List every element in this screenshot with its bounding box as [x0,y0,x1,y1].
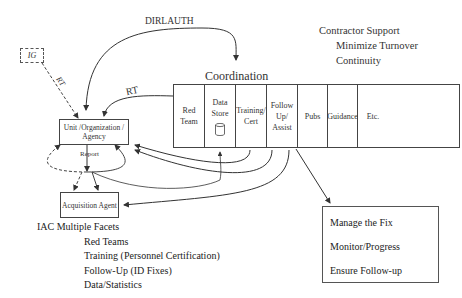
report-label: Report [80,150,99,158]
acquisition-label: Acquisition Agent [62,201,117,210]
unit-label: Unit /Organization / Agency [62,123,126,141]
cell-guidance: Guidance [328,85,358,147]
dirlauth-label: DIRLAUTH [145,16,194,26]
contractor-item-continuity: Continuity [336,54,381,68]
cell-etc: Etc. [358,85,388,147]
facet-follow-up: Follow-Up (ID Fixes) [37,264,220,279]
facet-data-statistics: Data/Statistics [37,278,220,293]
iac-facets: IAC Multiple Facets Red Teams Training (… [37,220,220,293]
cell-red-team: Red Team [174,85,205,147]
ig-box: IG [20,48,44,63]
ig-label: IG [28,51,36,61]
unit-organization-agency-box: Unit /Organization / Agency [59,119,129,145]
contractor-support-title: Contractor Support [319,24,400,38]
facet-red-teams: Red Teams [37,235,220,250]
facet-training: Training (Personnel Certification) [37,249,220,264]
cell-training-cert: Training/ Cert [236,85,267,147]
cell-data-store: Data Store [205,85,236,147]
iac-facets-title: IAC Multiple Facets [37,220,220,235]
cell-follow-up-assist: Follow Up/ Assist [267,85,298,147]
contractor-item-minimize-turnover: Minimize Turnover [336,39,418,53]
database-cylinder-icon [215,123,225,136]
coordination-title: Coordination [205,69,268,84]
fix-actions-box: Manage the Fix Monitor/Progress Ensure F… [322,206,439,283]
acquisition-agent-box: Acquisition Agent [60,192,119,218]
fix-item-manage: Manage the Fix [330,211,438,235]
coordination-table: Red Team Data Store Training/ Cert Follo… [173,84,460,148]
cell-pubs: Pubs [298,85,328,147]
fix-item-monitor: Monitor/Progress [330,235,438,259]
fix-item-ensure: Ensure Follow-up [330,259,438,283]
